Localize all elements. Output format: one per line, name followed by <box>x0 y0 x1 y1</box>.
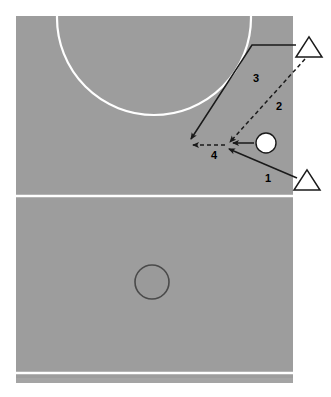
court-outer-strip <box>16 378 293 383</box>
movement-label-2: 2 <box>276 100 282 112</box>
center-spot <box>135 265 169 299</box>
tactics-diagram: 1 2 3 4 <box>0 0 331 397</box>
tactics-canvas: 1 2 3 4 <box>0 0 331 397</box>
movement-label-4: 4 <box>211 149 218 161</box>
movement-label-1: 1 <box>265 172 271 184</box>
movement-label-3: 3 <box>253 72 259 84</box>
ball-marker <box>256 133 276 153</box>
